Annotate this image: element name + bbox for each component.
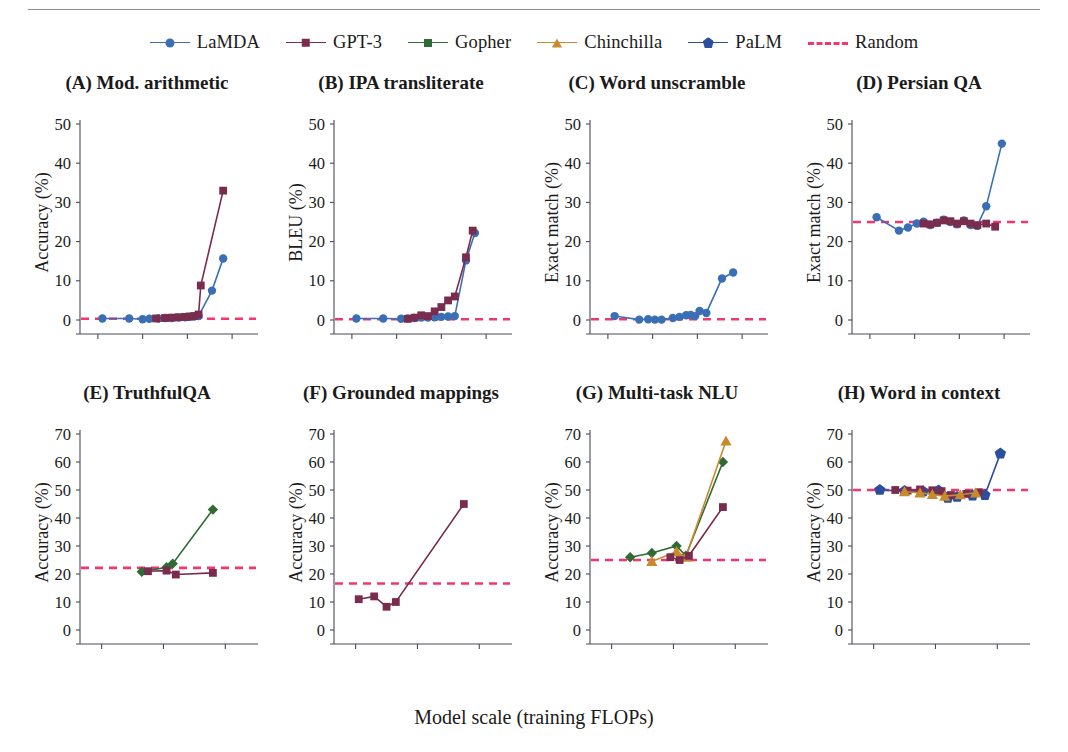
chart-legend: LaMDAGPT-3GopherChinchillaPaLMRandom bbox=[0, 32, 1068, 53]
subplot-title: (F) Grounded mappings bbox=[272, 382, 530, 404]
svg-text:40: 40 bbox=[565, 154, 582, 173]
svg-text:1024: 1024 bbox=[990, 339, 1018, 340]
svg-text:10: 10 bbox=[55, 271, 72, 290]
svg-text:30: 30 bbox=[565, 193, 582, 212]
header-rule bbox=[28, 9, 1040, 10]
legend-item-random[interactable]: Random bbox=[808, 32, 918, 53]
svg-text:0: 0 bbox=[317, 311, 325, 330]
svg-text:10: 10 bbox=[827, 593, 844, 612]
svg-text:70: 70 bbox=[565, 425, 582, 444]
svg-text:10: 10 bbox=[565, 593, 582, 612]
y-axis-label: BLEU (%) bbox=[286, 133, 307, 313]
plot-area: 010203040501018102010221024Accuracy (%) bbox=[18, 108, 276, 338]
svg-text:1022: 1022 bbox=[404, 649, 432, 650]
svg-text:20: 20 bbox=[55, 565, 72, 584]
svg-text:0: 0 bbox=[573, 311, 581, 330]
y-axis-label: Accuracy (%) bbox=[286, 443, 307, 623]
plot-area: 010203040506070102010221024Accuracy (%) bbox=[18, 418, 276, 648]
svg-text:30: 30 bbox=[309, 537, 326, 556]
subplot-c: (C) Word unscramble010203040501018102010… bbox=[528, 72, 786, 372]
svg-text:10: 10 bbox=[827, 271, 844, 290]
svg-text:50: 50 bbox=[55, 115, 72, 134]
y-axis-label: Accuracy (%) bbox=[32, 133, 53, 313]
svg-text:50: 50 bbox=[565, 481, 582, 500]
triangle-marker-icon bbox=[537, 36, 577, 50]
svg-text:1022: 1022 bbox=[946, 339, 974, 340]
subplot-title: (G) Multi-task NLU bbox=[528, 382, 786, 404]
svg-text:50: 50 bbox=[827, 481, 844, 500]
svg-text:20: 20 bbox=[565, 565, 582, 584]
plot-area: 010203040506070102010221024Accuracy (%) bbox=[272, 418, 530, 648]
svg-text:70: 70 bbox=[55, 425, 72, 444]
subplot-title: (A) Mod. arithmetic bbox=[18, 72, 276, 94]
legend-label: LaMDA bbox=[197, 32, 260, 53]
subplot-g: (G) Multi-task NLU0102030405060701020102… bbox=[528, 382, 786, 682]
y-axis-label: Accuracy (%) bbox=[542, 443, 563, 623]
svg-text:30: 30 bbox=[309, 193, 326, 212]
figure-xaxis-caption: Model scale (training FLOPs) bbox=[0, 706, 1068, 729]
svg-text:0: 0 bbox=[573, 621, 581, 640]
svg-text:10: 10 bbox=[309, 593, 326, 612]
legend-label: PaLM bbox=[735, 32, 782, 53]
subplot-b: (B) IPA transliterate0102030405010181020… bbox=[272, 72, 530, 372]
svg-text:1020: 1020 bbox=[383, 339, 411, 340]
svg-text:70: 70 bbox=[827, 425, 844, 444]
diamond-marker-icon bbox=[408, 36, 448, 50]
subplot-h: (H) Word in context010203040506070102010… bbox=[790, 382, 1048, 682]
svg-text:1020: 1020 bbox=[88, 649, 116, 650]
legend-item-gopher[interactable]: Gopher bbox=[408, 32, 511, 53]
svg-text:0: 0 bbox=[835, 621, 843, 640]
legend-label: GPT-3 bbox=[333, 32, 382, 53]
svg-text:40: 40 bbox=[565, 509, 582, 528]
svg-text:20: 20 bbox=[827, 232, 844, 251]
svg-text:50: 50 bbox=[565, 115, 582, 134]
svg-text:1018: 1018 bbox=[338, 339, 366, 340]
svg-text:1024: 1024 bbox=[728, 339, 756, 340]
plot-area: 010203040506070102010221024Accuracy (%) bbox=[528, 418, 786, 648]
svg-text:1020: 1020 bbox=[129, 339, 157, 340]
legend-item-chinchilla[interactable]: Chinchilla bbox=[537, 32, 662, 53]
y-axis-label: Accuracy (%) bbox=[32, 443, 53, 623]
subplot-title: (E) TruthfulQA bbox=[18, 382, 276, 404]
svg-text:1020: 1020 bbox=[901, 339, 929, 340]
plot-area: 010203040501018102010221024Exact match (… bbox=[790, 108, 1048, 338]
svg-text:60: 60 bbox=[827, 453, 844, 472]
svg-text:30: 30 bbox=[55, 193, 72, 212]
svg-text:1022: 1022 bbox=[174, 339, 202, 340]
svg-text:20: 20 bbox=[309, 565, 326, 584]
svg-text:60: 60 bbox=[55, 453, 72, 472]
legend-item-gpt-3[interactable]: GPT-3 bbox=[286, 32, 382, 53]
svg-text:1018: 1018 bbox=[594, 339, 622, 340]
svg-text:10: 10 bbox=[309, 271, 326, 290]
svg-text:10: 10 bbox=[565, 271, 582, 290]
svg-text:1024: 1024 bbox=[466, 649, 494, 650]
svg-text:60: 60 bbox=[565, 453, 582, 472]
svg-text:40: 40 bbox=[827, 154, 844, 173]
svg-text:1018: 1018 bbox=[856, 339, 884, 340]
svg-text:0: 0 bbox=[63, 621, 71, 640]
svg-text:20: 20 bbox=[309, 232, 326, 251]
circle-marker-icon bbox=[150, 36, 190, 50]
square-marker-icon bbox=[286, 36, 326, 50]
svg-text:70: 70 bbox=[309, 425, 326, 444]
legend-item-lamda[interactable]: LaMDA bbox=[150, 32, 260, 53]
subplot-a: (A) Mod. arithmetic010203040501018102010… bbox=[18, 72, 276, 372]
svg-text:20: 20 bbox=[55, 232, 72, 251]
svg-text:1024: 1024 bbox=[984, 649, 1012, 650]
legend-item-palm[interactable]: PaLM bbox=[688, 32, 782, 53]
svg-text:40: 40 bbox=[309, 509, 326, 528]
svg-text:1024: 1024 bbox=[218, 339, 246, 340]
svg-text:0: 0 bbox=[835, 311, 843, 330]
svg-text:30: 30 bbox=[565, 537, 582, 556]
svg-text:1024: 1024 bbox=[472, 339, 500, 340]
svg-text:20: 20 bbox=[565, 232, 582, 251]
svg-text:50: 50 bbox=[55, 481, 72, 500]
svg-text:30: 30 bbox=[55, 537, 72, 556]
svg-text:1022: 1022 bbox=[922, 649, 950, 650]
subplot-title: (D) Persian QA bbox=[790, 72, 1048, 94]
svg-text:40: 40 bbox=[55, 154, 72, 173]
svg-text:1020: 1020 bbox=[639, 339, 667, 340]
plot-area: 010203040506070102010221024Accuracy (%) bbox=[790, 418, 1048, 648]
svg-text:20: 20 bbox=[827, 565, 844, 584]
plot-area: 010203040501018102010221024BLEU (%) bbox=[272, 108, 530, 338]
